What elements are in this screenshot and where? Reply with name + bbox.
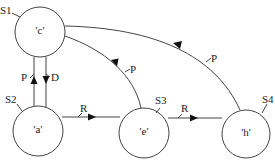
node-label: 'h' [241,126,250,138]
edge-label: P [21,71,27,83]
edge-label: D [51,71,59,83]
arrow-icon [173,41,182,49]
node-label: 'e' [140,125,149,137]
edge-label: R [80,102,88,114]
edge-a-to-e-R: R [62,102,120,121]
edge-e-to-h-R: R [168,102,222,122]
node-s3: S3 'e' [119,94,169,158]
arrow-right-icon [190,115,198,122]
edge-label: R [181,102,189,114]
node-tag: S2 [5,93,17,105]
node-tag: S4 [262,93,274,105]
edge-e-to-c-P: P [65,36,141,108]
edge-c-to-a-D: D [43,57,60,107]
edge-a-to-c-P: P [21,57,38,107]
node-label: 'c' [36,24,45,36]
edge-h-to-c-P: P [65,26,240,110]
node-label: 'a' [34,123,43,135]
node-tag: S1 [0,4,12,16]
edge-label: P [211,52,217,64]
arrow-down-icon [43,76,50,84]
arrow-right-icon [88,114,96,121]
node-tag: S3 [155,94,167,106]
node-s4: S4 'h' [222,93,274,158]
node-s1: S1 'c' [0,4,65,57]
state-diagram: P D R R P [0,0,275,163]
arrow-up-icon [31,76,38,84]
edge-label: P [130,63,136,75]
